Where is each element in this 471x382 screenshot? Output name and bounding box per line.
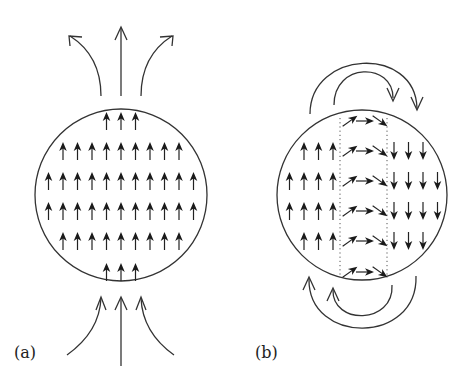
domain-arrows-a (45, 112, 198, 281)
moment-arrow (315, 202, 323, 220)
moment-arrow (146, 172, 154, 190)
moment-arrow (103, 142, 111, 160)
sphere-b (277, 110, 447, 280)
moment-arrow (161, 142, 169, 160)
moment-arrow (329, 172, 337, 190)
moment-arrow (103, 172, 111, 190)
moment-arrow (300, 232, 308, 250)
moment-arrow (132, 202, 140, 220)
moment-arrow (356, 147, 374, 155)
moment-arrow (434, 172, 442, 190)
moment-arrow (45, 172, 53, 190)
moment-arrow (286, 172, 294, 190)
moment-arrow (146, 142, 154, 160)
moment-arrow (315, 232, 323, 250)
moment-arrow (103, 263, 111, 281)
moment-arrow (300, 202, 308, 220)
moment-arrow (103, 232, 111, 250)
moment-arrow (74, 202, 82, 220)
panel-a: (a) (14, 27, 207, 366)
field-lines-bottom-a (67, 297, 174, 366)
moment-arrow (175, 232, 183, 250)
moment-arrow (300, 142, 308, 160)
moment-arrow (419, 172, 427, 190)
moment-arrow (419, 232, 427, 250)
moment-arrow (419, 202, 427, 220)
moment-arrow (300, 172, 308, 190)
moment-arrow (161, 232, 169, 250)
moment-arrow (146, 202, 154, 220)
moment-arrow (132, 142, 140, 160)
moment-arrow (88, 172, 96, 190)
moment-arrow (356, 177, 374, 185)
moment-arrow (329, 142, 337, 160)
moment-arrow (117, 142, 125, 160)
moment-arrow (175, 202, 183, 220)
moment-arrow (117, 232, 125, 250)
moment-arrow (59, 172, 67, 190)
closure-loops-top-b (310, 63, 423, 114)
moment-arrow (117, 112, 125, 130)
moment-arrow (74, 172, 82, 190)
moment-arrow (434, 202, 442, 220)
panel-label-b: (b) (255, 343, 278, 362)
moment-arrow (356, 207, 374, 215)
moment-arrow (59, 232, 67, 250)
moment-arrow (175, 142, 183, 160)
closure-loops-bottom-b (303, 276, 416, 328)
panel-b: (b) (255, 63, 447, 362)
moment-arrow (405, 172, 413, 190)
domain-arrows-b (286, 113, 442, 281)
moment-arrow (132, 112, 140, 130)
moment-arrow (390, 142, 398, 160)
moment-arrow (405, 232, 413, 250)
moment-arrow (132, 263, 140, 281)
moment-arrow (45, 202, 53, 220)
moment-arrow (175, 172, 183, 190)
moment-arrow (419, 142, 427, 160)
moment-arrow (405, 142, 413, 160)
moment-arrow (88, 202, 96, 220)
moment-arrow (117, 172, 125, 190)
moment-arrow (146, 232, 154, 250)
moment-arrow (356, 237, 374, 245)
moment-arrow (59, 142, 67, 160)
moment-arrow (117, 202, 125, 220)
moment-arrow (315, 172, 323, 190)
moment-arrow (405, 202, 413, 220)
panel-label-a: (a) (14, 343, 36, 362)
moment-arrow (74, 232, 82, 250)
moment-arrow (390, 232, 398, 250)
moment-arrow (132, 172, 140, 190)
field-lines-top-a (69, 27, 173, 96)
moment-arrow (329, 202, 337, 220)
moment-arrow (103, 202, 111, 220)
moment-arrow (59, 202, 67, 220)
moment-arrow (286, 202, 294, 220)
moment-arrow (103, 112, 111, 130)
moment-arrow (74, 142, 82, 160)
moment-arrow (356, 117, 374, 125)
moment-arrow (88, 142, 96, 160)
moment-arrow (315, 142, 323, 160)
moment-arrow (161, 202, 169, 220)
moment-arrow (390, 172, 398, 190)
moment-arrow (190, 172, 198, 190)
moment-arrow (88, 232, 96, 250)
moment-arrow (190, 202, 198, 220)
moment-arrow (329, 232, 337, 250)
moment-arrow (161, 172, 169, 190)
sphere-a (35, 109, 207, 281)
moment-arrow (356, 268, 374, 276)
moment-arrow (390, 202, 398, 220)
moment-arrow (132, 232, 140, 250)
moment-arrow (117, 263, 125, 281)
magnetic-domain-diagram: (a) (b) (0, 0, 471, 382)
